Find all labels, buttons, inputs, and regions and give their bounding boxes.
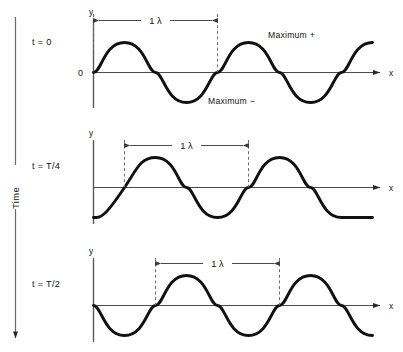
panel-t-half-wavelength-label: 1 λ bbox=[211, 258, 224, 269]
wave-figure-svg: Time t = 0 y x 0 1 λ Maximum + Maximum − bbox=[0, 0, 403, 352]
maximum-negative-label: Maximum − bbox=[208, 96, 255, 106]
panel-t0-origin-label: 0 bbox=[78, 68, 83, 78]
panel-t-quarter-wavelength-label: 1 λ bbox=[180, 140, 193, 151]
panel-t0-wavelength-label: 1 λ bbox=[149, 15, 162, 26]
panel-t-half-time-label: t = T/2 bbox=[32, 279, 60, 289]
panel-t0-x-axis-label: x bbox=[389, 68, 394, 78]
time-axis-group: Time bbox=[6, 17, 25, 338]
panel-t-half: t = T/2 y x 1 λ bbox=[32, 246, 394, 342]
panel-t0-time-label: t = 0 bbox=[32, 37, 52, 47]
panel-t-half-y-axis-label: y bbox=[89, 246, 94, 256]
time-axis-label: Time bbox=[10, 187, 21, 209]
wave-figure-container: Time t = 0 y x 0 1 λ Maximum + Maximum − bbox=[0, 0, 403, 352]
panel-t-half-x-axis-label: x bbox=[389, 301, 394, 311]
panel-t0: t = 0 y x 0 1 λ Maximum + Maximum − bbox=[32, 7, 394, 108]
panel-t-quarter-y-axis-label: y bbox=[89, 128, 94, 138]
panel-t-quarter-x-axis-label: x bbox=[389, 183, 394, 193]
panel-t-quarter-time-label: t = T/4 bbox=[32, 161, 60, 171]
maximum-positive-label: Maximum + bbox=[268, 30, 315, 40]
panel-t-quarter: t = T/4 y x 1 λ bbox=[32, 128, 394, 224]
